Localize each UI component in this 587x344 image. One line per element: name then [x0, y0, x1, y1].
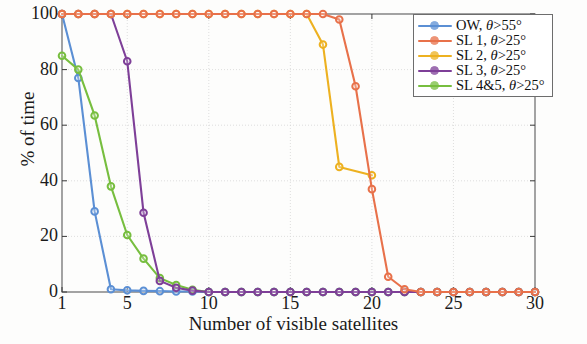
- series-marker: [238, 11, 245, 18]
- series-marker: [91, 208, 98, 215]
- legend-item[interactable]: SL 2, θ>25°: [418, 48, 545, 63]
- legend-marker-icon: [430, 21, 439, 30]
- legend-marker-icon: [430, 66, 439, 75]
- series-marker: [124, 11, 131, 18]
- series-marker: [75, 66, 82, 73]
- series-marker: [320, 41, 327, 48]
- series-marker: [320, 11, 327, 18]
- series-marker: [157, 278, 164, 285]
- series-marker: [238, 289, 245, 296]
- series-marker: [287, 11, 294, 18]
- x-tick-label: 15: [270, 293, 310, 314]
- series-marker: [336, 16, 343, 23]
- legend-item[interactable]: OW, θ>55°: [418, 18, 545, 33]
- series-marker: [303, 11, 310, 18]
- legend-marker-icon: [430, 51, 439, 60]
- series-marker: [140, 209, 147, 216]
- series-line: [62, 14, 372, 175]
- series-marker: [140, 11, 147, 18]
- series-marker: [336, 289, 343, 296]
- legend-label: SL 4&5, θ>25°: [456, 77, 545, 94]
- legend-swatch: [418, 79, 452, 93]
- chart-figure: % of time Number of visible satellites 0…: [0, 0, 587, 344]
- series-marker: [124, 58, 131, 65]
- series-marker: [320, 289, 327, 296]
- x-tick-label: 10: [189, 293, 229, 314]
- series-marker: [352, 83, 359, 90]
- x-axis-label: Number of visible satellites: [0, 313, 587, 335]
- series-marker: [140, 255, 147, 262]
- series-marker: [499, 289, 506, 296]
- y-tick-label: 60: [18, 114, 58, 135]
- series-marker: [336, 164, 343, 171]
- series-marker: [418, 289, 425, 296]
- x-tick-label: 30: [515, 293, 555, 314]
- series-marker: [91, 112, 98, 119]
- series-3: [59, 11, 376, 179]
- y-tick-label: 20: [18, 225, 58, 246]
- series-marker: [369, 186, 376, 193]
- series-marker: [173, 11, 180, 18]
- legend-item[interactable]: SL 1, θ>25°: [418, 33, 545, 48]
- x-tick-label: 1: [42, 293, 82, 314]
- series-marker: [75, 11, 82, 18]
- series-marker: [205, 11, 212, 18]
- series-marker: [189, 11, 196, 18]
- series-marker: [483, 289, 490, 296]
- chart-legend: OW, θ>55°SL 1, θ>25°SL 2, θ>25°SL 3, θ>2…: [413, 14, 553, 97]
- series-marker: [385, 273, 392, 280]
- series-marker: [254, 11, 261, 18]
- series-marker: [157, 288, 164, 295]
- y-tick-label: 100: [18, 3, 58, 24]
- series-marker: [91, 11, 98, 18]
- series-marker: [271, 11, 278, 18]
- series-marker: [108, 183, 115, 190]
- series-marker: [222, 11, 229, 18]
- series-marker: [59, 11, 66, 18]
- legend-marker-icon: [430, 36, 439, 45]
- series-marker: [108, 286, 115, 293]
- series-marker: [108, 11, 115, 18]
- legend-item[interactable]: SL 3, θ>25°: [418, 63, 545, 78]
- y-tick-label: 40: [18, 170, 58, 191]
- series-marker: [254, 289, 261, 296]
- x-tick-label: 5: [107, 293, 147, 314]
- legend-swatch: [418, 64, 452, 78]
- y-tick-label: 80: [18, 59, 58, 80]
- x-tick-label: 25: [433, 293, 473, 314]
- legend-swatch: [418, 19, 452, 33]
- series-marker: [173, 285, 180, 292]
- series-marker: [401, 286, 408, 293]
- series-marker: [59, 52, 66, 59]
- legend-item[interactable]: SL 4&5, θ>25°: [418, 78, 545, 93]
- series-marker: [157, 11, 164, 18]
- series-marker: [124, 232, 131, 239]
- legend-swatch: [418, 49, 452, 63]
- legend-swatch: [418, 34, 452, 48]
- x-tick-label: 20: [352, 293, 392, 314]
- legend-marker-icon: [430, 81, 439, 90]
